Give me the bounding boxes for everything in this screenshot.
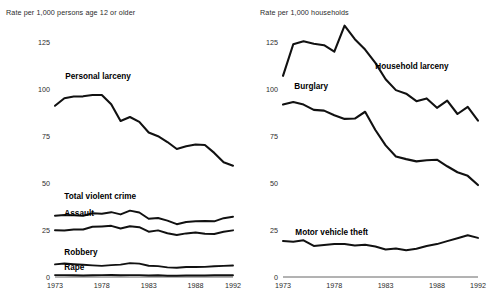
y-axis-tick-label: 125 [28, 38, 50, 47]
series-label-household-larceny: Household larceny [375, 62, 448, 71]
series-label-total-violent-crime: Total violent crime [64, 192, 136, 201]
y-axis-tick-label: 25 [256, 226, 278, 235]
series-label-robbery: Robbery [64, 248, 97, 257]
y-axis-tick-label: 75 [256, 132, 278, 141]
x-axis-tick-label: 1992 [464, 281, 492, 290]
x-axis-tick-label: 1983 [372, 281, 400, 290]
y-axis-tick-label: 50 [28, 179, 50, 188]
y-axis-tick-label: 75 [28, 132, 50, 141]
x-axis-tick-label: 1992 [219, 281, 247, 290]
x-axis-tick-label: 1988 [423, 281, 451, 290]
series-label-burglary: Burglary [294, 82, 328, 91]
x-axis-tick-label: 1978 [88, 281, 116, 290]
y-axis-tick-label: 125 [256, 38, 278, 47]
data-line-assault [55, 226, 233, 235]
y-axis-tick-label: 25 [28, 226, 50, 235]
data-line-motor-vehicle-theft [283, 235, 478, 250]
series-label-motor-vehicle-theft: Motor vehicle theft [295, 228, 368, 237]
series-label-assault: Assault [64, 209, 94, 218]
series-label-personal-larceny: Personal larceny [65, 72, 131, 81]
y-axis-tick-label: 100 [28, 85, 50, 94]
right-chart-plot [248, 0, 493, 304]
data-line-personal-larceny [55, 95, 233, 166]
y-axis-tick-label: 50 [256, 179, 278, 188]
chart-panel-household-crimes: Rate per 1,000 households 12510075502501… [248, 0, 493, 304]
y-axis-tick-label: 100 [256, 85, 278, 94]
data-line-household-larceny [283, 26, 478, 121]
data-line-burglary [283, 102, 478, 185]
x-axis-tick-label: 1973 [269, 281, 297, 290]
data-line-rape [55, 275, 233, 276]
x-axis-tick-label: 1983 [135, 281, 163, 290]
x-axis-tick-label: 1978 [320, 281, 348, 290]
chart-panel-personal-crimes: Rate per 1,000 persons age 12 or older 1… [0, 0, 248, 304]
x-axis-tick-label: 1973 [41, 281, 69, 290]
x-axis-tick-label: 1988 [182, 281, 210, 290]
series-label-rape: Rape [64, 263, 84, 272]
